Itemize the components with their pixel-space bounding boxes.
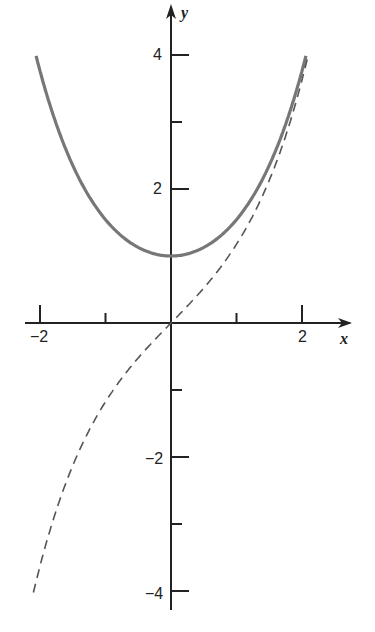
x-tick-label-2: 2 [298,328,307,346]
x-tick-label-neg2: −2 [30,328,48,346]
x-axis-label: x [340,330,348,348]
y-tick-label-neg2: −2 [145,450,163,468]
plot-canvas [0,0,375,632]
y-tick-label-2: 2 [153,180,162,198]
y-tick-label-neg4: −4 [145,585,163,603]
y-tick-label-4: 4 [153,46,162,64]
y-axis-label: y [181,4,188,22]
axes [25,4,352,610]
